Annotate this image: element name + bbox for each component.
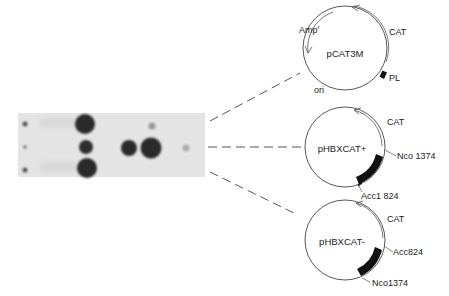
blot-spot — [77, 158, 97, 178]
connector-line-bottom — [210, 172, 298, 215]
blot-spot — [141, 138, 162, 159]
blot-spot — [23, 145, 27, 149]
nco-site-label: Nco1374 — [372, 278, 408, 288]
plasmid-pcat3m: pCAT3M Ampr CAT PL ori — [299, 5, 407, 95]
plasmid-name: pCAT3M — [327, 48, 364, 59]
amp-arrowhead-icon — [305, 46, 312, 53]
pl-promoter-box — [379, 70, 386, 78]
connector-line-top — [210, 73, 300, 121]
plasmid-name: pHBXCAT+ — [318, 143, 367, 154]
cat-label: CAT — [387, 214, 405, 224]
nco-site-label: Nco 1374 — [397, 151, 436, 161]
blot-spot — [23, 168, 28, 173]
acc-pointer — [384, 246, 393, 252]
blot-spot — [79, 140, 93, 154]
blot-spot — [183, 145, 190, 152]
nco-pointer — [362, 278, 370, 282]
plasmid-phbxcat-minus: pHBXCAT- CAT Acc824 Nco1374 — [305, 200, 423, 288]
blot-spot — [23, 122, 28, 127]
blot-spot — [75, 114, 95, 134]
amp-label: Ampr — [299, 24, 320, 35]
blot-spot — [121, 140, 137, 156]
pl-label: PL — [389, 73, 400, 83]
figure: pCAT3M Ampr CAT PL ori pHBXCAT+ CAT Nco … — [0, 0, 449, 296]
acc-site-label: Acc824 — [393, 247, 423, 257]
ori-label: ori — [314, 85, 324, 95]
plasmid-phbxcat-plus: pHBXCAT+ CAT Nco 1374 Acc1 824 — [305, 107, 436, 201]
cat-label: CAT — [387, 117, 405, 127]
connector-lines — [208, 73, 302, 215]
acc-site-label: Acc1 824 — [361, 191, 399, 201]
cat-label: CAT — [389, 27, 407, 37]
cat-gene-arc — [354, 110, 382, 146]
plasmid-name: pHBXCAT- — [319, 236, 365, 247]
blot-spot — [149, 123, 156, 130]
dot-blot-autoradiograph — [18, 113, 205, 178]
nco-pointer — [385, 150, 396, 156]
